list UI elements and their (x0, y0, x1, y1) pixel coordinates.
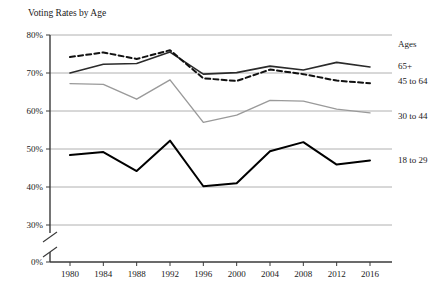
y-tick-label-30%: 30% (27, 220, 44, 230)
chart-canvas: Voting Rates by Age80%70%60%50%40%30%0%1… (0, 0, 441, 293)
x-tick-label-2004: 2004 (261, 269, 280, 279)
x-tick-label-2000: 2000 (228, 269, 247, 279)
legend-label-65-[interactable]: 65+ (398, 61, 412, 71)
x-tick-label-1992: 1992 (161, 269, 179, 279)
legend-label-30-to-44[interactable]: 30 to 44 (398, 111, 428, 121)
x-tick-label-2016: 2016 (361, 269, 380, 279)
y-tick-label-50%: 50% (27, 144, 44, 154)
y-tick-label-80%: 80% (27, 30, 44, 40)
x-tick-label-1984: 1984 (94, 269, 113, 279)
y-tick-label-70%: 70% (27, 68, 44, 78)
series-line-18-to-29 (70, 141, 370, 187)
chart-title: Voting Rates by Age (28, 8, 106, 18)
legend-title: Ages (398, 39, 417, 49)
y-tick-label-60%: 60% (27, 106, 44, 116)
x-tick-label-1996: 1996 (194, 269, 213, 279)
x-tick-label-1980: 1980 (61, 269, 80, 279)
x-tick-label-2008: 2008 (294, 269, 313, 279)
series-line-45-to-64 (70, 50, 370, 83)
voting-rates-chart: Voting Rates by Age80%70%60%50%40%30%0%1… (0, 0, 441, 293)
series-line-30-to-44 (70, 80, 370, 123)
y-tick-label-0%: 0% (31, 257, 44, 267)
x-tick-label-2012: 2012 (328, 269, 346, 279)
legend-label-18-to-29[interactable]: 18 to 29 (398, 155, 428, 165)
axis-break-slash-upper (43, 232, 57, 242)
legend-label-45-to-64[interactable]: 45 to 64 (398, 76, 428, 86)
x-tick-label-1988: 1988 (128, 269, 147, 279)
y-tick-label-40%: 40% (27, 182, 44, 192)
